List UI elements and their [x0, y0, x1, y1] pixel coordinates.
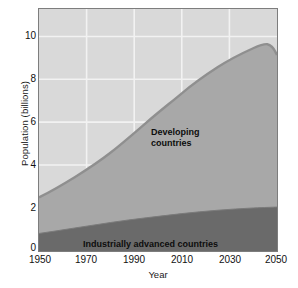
x-tick-label: 1970 — [66, 254, 106, 266]
x-tick-label: 2010 — [162, 254, 202, 266]
y-tick-label: 0 — [14, 243, 36, 253]
industrially-advanced-countries-label: Industrially advanced countries — [83, 239, 218, 250]
developing-countries-label-line1: Developing — [151, 127, 200, 138]
y-tick-label: 10 — [14, 31, 36, 41]
plot-area: Developing countries Industrially advanc… — [38, 8, 278, 252]
x-tick-label: 1990 — [114, 254, 154, 266]
developing-countries-label: Developing countries — [151, 127, 200, 149]
y-axis-tick-labels: 10 8 6 4 2 0 — [10, 0, 36, 288]
x-tick-label: 1950 — [20, 254, 60, 266]
y-tick-label: 8 — [14, 74, 36, 84]
x-tick-label: 2050 — [256, 254, 296, 266]
y-tick-label: 4 — [14, 160, 36, 170]
x-axis-tick-labels: 1950 1970 1990 2010 2030 2050 — [0, 254, 298, 270]
y-tick-label: 2 — [14, 203, 36, 213]
x-tick-label: 2030 — [210, 254, 250, 266]
population-area-chart: Population (billions) 10 8 6 4 2 0 — [0, 0, 298, 288]
x-axis-title: Year — [38, 269, 278, 280]
y-tick-label: 6 — [14, 117, 36, 127]
developing-countries-label-line2: countries — [151, 138, 200, 149]
